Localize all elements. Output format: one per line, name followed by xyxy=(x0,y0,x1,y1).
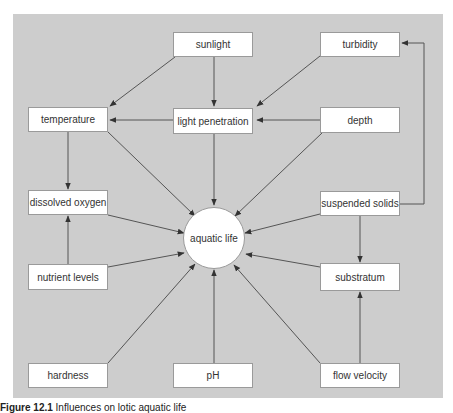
edge-substratum-aquatic-life xyxy=(246,254,320,267)
edge-dissolved-oxygen-aquatic-life xyxy=(108,215,184,233)
node-flow-velocity: flow velocity xyxy=(320,363,400,388)
hub-aquatic-life: aquatic life xyxy=(183,207,245,269)
node-light-penetration: light penetration xyxy=(173,108,253,134)
edge-depth-aquatic-life xyxy=(235,133,322,216)
figure-caption: Figure 12.1 Influences on lotic aquatic … xyxy=(0,402,186,413)
node-nutrient-levels: nutrient levels xyxy=(28,264,108,290)
edge-suspended-solids-aquatic-life xyxy=(245,214,320,233)
node-depth: depth xyxy=(320,107,400,133)
node-sunlight: sunlight xyxy=(173,32,253,57)
node-ph: pH xyxy=(173,363,253,388)
edge-hardness-aquatic-life xyxy=(108,264,195,363)
edge-turbidity-light-penetration xyxy=(257,56,320,106)
node-temperature: temperature xyxy=(28,107,108,132)
node-hardness: hardness xyxy=(28,363,108,388)
edge-nutrient-levels-aquatic-life xyxy=(108,253,184,267)
node-substratum: substratum xyxy=(320,263,400,291)
caption-prefix: Figure 12.1 xyxy=(0,402,53,413)
node-turbidity: turbidity xyxy=(320,32,400,57)
edge-flow-velocity-aquatic-life xyxy=(234,265,320,363)
edge-temperature-aquatic-life xyxy=(108,132,195,216)
edge-suspended-solids-turbidity xyxy=(400,43,424,204)
edge-sunlight-temperature xyxy=(110,57,175,106)
caption-text: Influences on lotic aquatic life xyxy=(56,402,187,413)
node-suspended-solids: suspended solids xyxy=(320,191,400,216)
node-dissolved-oxygen: dissolved oxygen xyxy=(28,190,108,215)
